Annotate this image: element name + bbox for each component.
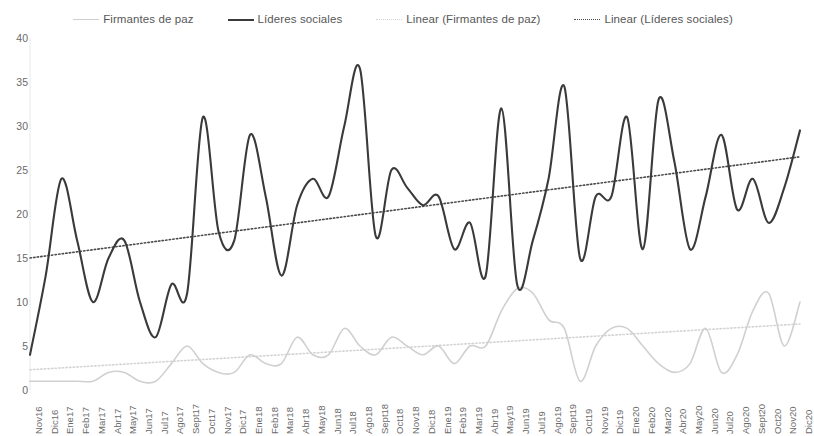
x-axis-tick-label: May18 [317, 405, 327, 434]
x-axis-tick-label: Ene17 [65, 407, 75, 434]
x-axis-tick-label: May20 [694, 405, 704, 434]
x-axis-tick-label: Jul20 [725, 411, 735, 434]
x-axis-tick-label: Jul17 [160, 411, 170, 434]
x-axis-tick-label: Feb18 [270, 407, 280, 434]
x-axis-tick-label: Nov19 [600, 407, 610, 434]
x-axis-tick-label: Ene20 [631, 407, 641, 434]
x-axis-tick-label: May19 [505, 405, 515, 434]
x-axis-tick-label: Dic17 [238, 410, 248, 434]
x-axis-tick-label: Mar18 [285, 407, 295, 434]
x-axis-tick-label: Oct20 [773, 409, 783, 434]
x-axis-tick-label: Sept17 [191, 404, 201, 434]
x-axis-tick-label: Dic20 [804, 410, 814, 434]
x-axis-tick-label: Oct19 [584, 409, 594, 434]
x-axis-tick-label: Ago19 [553, 407, 563, 434]
x-axis-tick-label: Feb19 [458, 407, 468, 434]
x-axis-tick-label: Sept18 [380, 404, 390, 434]
x-axis-tick-label: Ene19 [443, 407, 453, 434]
x-axis-tick-label: Ago17 [175, 407, 185, 434]
x-axis-tick-label: Oct18 [395, 409, 405, 434]
x-axis-tick-label: Nov20 [788, 407, 798, 434]
x-axis-tick-label: Feb17 [81, 407, 91, 434]
x-axis-tick-label: Abr20 [678, 409, 688, 434]
x-axis-tick-label: Mar17 [97, 407, 107, 434]
x-axis-tick-label: Jun20 [710, 408, 720, 434]
x-axis-tick-label: Jul18 [348, 411, 358, 434]
x-axis-tick-label: Nov16 [34, 407, 44, 434]
x-axis-tick-label: Jul19 [537, 411, 547, 434]
x-axis-tick-label: Dic18 [427, 410, 437, 434]
x-axis-tick-label: Jun19 [521, 408, 531, 434]
x-axis-tick-label: Abr19 [490, 409, 500, 434]
x-axis-tick-label: May17 [128, 405, 138, 434]
x-axis-tick-label: Sept19 [568, 404, 578, 434]
x-axis-tick-label: Oct17 [207, 409, 217, 434]
x-axis-tick-label: Sept20 [757, 404, 767, 434]
x-axis-tick-label: Feb20 [647, 407, 657, 434]
x-axis-tick-label: Jun17 [144, 408, 154, 434]
x-axis-tick-label: Dic16 [50, 410, 60, 434]
x-axis-tick-label: Ene18 [254, 407, 264, 434]
x-axis-tick-label: Ago18 [364, 407, 374, 434]
x-axis-tick-label: Nov18 [411, 407, 421, 434]
x-axis-tick-label: Jun18 [333, 408, 343, 434]
x-axis-tick-label: Dic19 [615, 410, 625, 434]
x-axis-tick-label: Nov17 [223, 407, 233, 434]
x-axis-tick-label: Mar19 [474, 407, 484, 434]
x-axis-tick-label: Mar20 [663, 407, 673, 434]
x-axis-tick-label: Ago20 [741, 407, 751, 434]
x-axis-tick-label: Abr18 [301, 409, 311, 434]
x-axis-tick-label: Abr17 [113, 409, 123, 434]
